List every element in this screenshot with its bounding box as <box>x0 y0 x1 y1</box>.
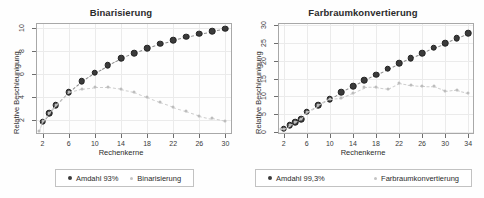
data-point <box>467 91 470 94</box>
x-tick-mark <box>307 134 308 138</box>
x-tick-label: 26 <box>418 140 426 147</box>
x-axis-title-right: Rechenkerne <box>242 148 484 157</box>
data-point <box>131 50 138 57</box>
data-point <box>373 71 380 78</box>
x-tick-mark <box>353 134 354 138</box>
data-point <box>305 110 308 113</box>
y-tick-mark <box>274 43 278 44</box>
data-point <box>92 69 99 76</box>
y-tick-mark <box>32 51 36 52</box>
data-point <box>386 87 389 90</box>
data-point <box>363 86 366 89</box>
y-tick-mark <box>274 96 278 97</box>
x-tick-label: 34 <box>464 140 472 147</box>
data-point <box>300 117 303 120</box>
data-point <box>118 55 125 62</box>
legend-item-measured-right: Farbraumkonvertierung <box>374 174 459 183</box>
y-tick-mark <box>32 28 36 29</box>
x-tick-mark <box>121 134 122 138</box>
data-point <box>444 90 447 93</box>
data-point <box>157 41 164 48</box>
chart-title-left: Binarisierung <box>0 7 242 18</box>
x-tick-label: 14 <box>117 140 125 147</box>
x-tick-label: 30 <box>222 140 230 147</box>
data-point <box>282 127 285 130</box>
data-point <box>407 55 414 62</box>
data-point <box>198 114 201 117</box>
legend-item-measured-left: Binarisierung <box>130 174 181 183</box>
x-tick-label: 18 <box>372 140 380 147</box>
x-tick-label: 6 <box>305 140 309 147</box>
figure-canvas: Binarisierung 24681026101418222630 Reche… <box>0 0 484 198</box>
data-point <box>144 45 151 52</box>
x-tick-label: 18 <box>143 140 151 147</box>
data-point <box>421 85 424 88</box>
gridline-vertical <box>147 24 148 133</box>
data-point <box>338 89 345 96</box>
x-tick-mark <box>376 134 377 138</box>
x-tick-mark <box>422 134 423 138</box>
legend-marker-light-icon <box>374 177 377 180</box>
legend-left: Amdahl 93% Binarisierung <box>55 169 194 187</box>
gridline-horizontal <box>279 61 473 62</box>
x-tick-mark <box>43 134 44 138</box>
gridline-horizontal <box>37 28 231 29</box>
data-point <box>172 105 175 108</box>
legend-label-measured-right: Farbraumkonvertierung <box>381 174 459 183</box>
legend-right: Amdahl 99,3% Farbraumkonvertierung <box>255 169 472 187</box>
data-point <box>119 87 122 90</box>
y-tick-mark <box>274 79 278 80</box>
y-tick-mark <box>32 74 36 75</box>
gridline-horizontal <box>279 79 473 80</box>
data-point <box>398 81 401 84</box>
y-tick-mark <box>274 114 278 115</box>
data-point <box>146 96 149 99</box>
data-point <box>419 50 426 57</box>
gridline-vertical <box>69 24 70 133</box>
y-tick-mark <box>32 97 36 98</box>
data-point <box>455 88 458 91</box>
y-tick-label: 25 <box>260 36 267 50</box>
x-tick-label: 14 <box>349 140 357 147</box>
x-tick-mark <box>330 134 331 138</box>
data-point <box>105 62 112 69</box>
data-point <box>41 120 44 123</box>
data-point <box>453 35 460 42</box>
gridline-horizontal <box>37 120 231 121</box>
x-tick-label: 10 <box>326 140 334 147</box>
chart-panel-farbraumkonvertierung: Farbraumkonvertierung 051015202530261014… <box>242 0 484 198</box>
x-tick-mark <box>284 134 285 138</box>
x-tick-label: 22 <box>395 140 403 147</box>
data-point <box>288 124 291 127</box>
data-point <box>196 30 203 37</box>
y-tick-mark <box>274 61 278 62</box>
data-point <box>80 87 83 90</box>
data-point <box>442 40 449 47</box>
data-point <box>430 44 437 51</box>
data-point <box>183 33 190 40</box>
data-point <box>340 96 343 99</box>
gridline-horizontal <box>279 96 473 97</box>
data-point <box>432 85 435 88</box>
gridline-horizontal <box>37 74 231 75</box>
x-tick-label: 30 <box>441 140 449 147</box>
data-point <box>78 78 85 85</box>
data-point <box>384 66 391 73</box>
legend-marker-light-icon <box>130 177 133 180</box>
legend-label-amdahl-right: Amdahl 99,3% <box>276 174 325 183</box>
data-point <box>328 97 331 100</box>
gridline-vertical <box>43 24 44 133</box>
x-tick-mark <box>468 134 469 138</box>
y-axis-title-left: Relative Beschleunigung <box>12 51 21 134</box>
legend-label-measured-left: Binarisierung <box>137 174 181 183</box>
chart-panel-binarisierung: Binarisierung 24681026101418222630 Reche… <box>0 0 242 198</box>
legend-marker-dark-icon <box>68 176 72 180</box>
data-point <box>106 86 109 89</box>
x-tick-label: 26 <box>195 140 203 147</box>
x-tick-mark <box>225 134 226 138</box>
data-point <box>361 77 368 84</box>
y-tick-mark <box>32 120 36 121</box>
data-point <box>209 28 216 35</box>
x-tick-mark <box>445 134 446 138</box>
x-tick-label: 10 <box>91 140 99 147</box>
